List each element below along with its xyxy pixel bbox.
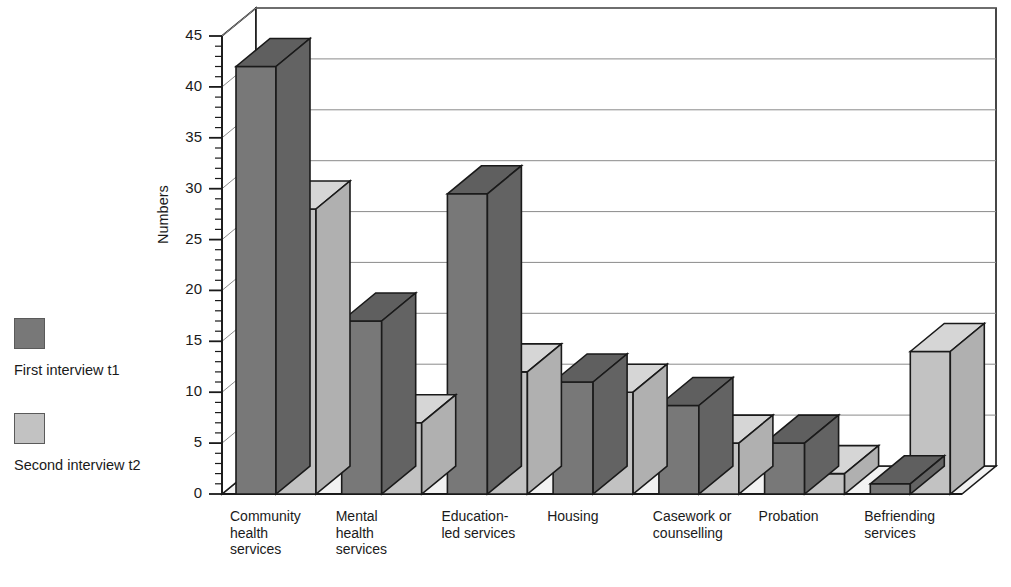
bar-0-series2-side: [316, 181, 350, 494]
ytick-label-35: 35: [185, 128, 202, 145]
ytick-label-40: 40: [185, 77, 202, 94]
chart-plot-area: 051015202530354045: [0, 0, 1011, 587]
x-axis-label-6-line-1: services: [864, 525, 994, 542]
x-axis-label-6-line-0: Befriending: [864, 508, 994, 525]
bar-6-series2-side: [950, 324, 984, 495]
bar-0-series1-side: [276, 39, 310, 495]
bar-1-series1-side: [382, 293, 416, 494]
ytick-label-20: 20: [185, 280, 202, 297]
ytick-label-10: 10: [185, 382, 202, 399]
ytick-label-0: 0: [194, 484, 202, 501]
bar-6-series1-front: [870, 484, 910, 494]
ytick-label-5: 5: [194, 433, 202, 450]
x-axis-label-6: Befriendingservices: [864, 508, 994, 541]
ytick-label-30: 30: [185, 179, 202, 196]
x-axis-label-4-line-1: counselling: [653, 525, 783, 542]
ytick-label-25: 25: [185, 230, 202, 247]
chart-figure: First interview t1 Second interview t2 N…: [0, 0, 1011, 587]
ytick-label-45: 45: [185, 26, 202, 43]
x-axis-label-2-line-1: led services: [441, 525, 571, 542]
bar-0-series1-front: [236, 67, 276, 495]
ytick-label-15: 15: [185, 331, 202, 348]
bar-2-series1-side: [487, 166, 521, 494]
x-axis-label-1-line-2: services: [336, 541, 466, 558]
